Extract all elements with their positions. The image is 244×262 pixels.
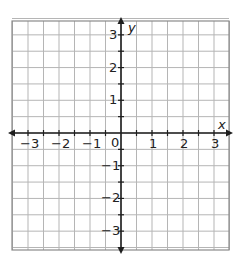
y-tick-label: 2 bbox=[109, 61, 117, 74]
coordinate-plane bbox=[0, 0, 244, 262]
x-tick-label: −1 bbox=[82, 137, 101, 150]
y-tick-label: 3 bbox=[109, 28, 117, 41]
y-tick-label: −2 bbox=[101, 191, 120, 204]
x-axis-label: x bbox=[218, 118, 226, 131]
x-tick-label: −2 bbox=[51, 137, 70, 150]
x-tick-label: 2 bbox=[180, 137, 188, 150]
y-axis-label: y bbox=[128, 21, 136, 34]
y-tick-label: −1 bbox=[101, 159, 120, 172]
origin-label: 0 bbox=[111, 136, 119, 149]
y-tick-label: 1 bbox=[109, 93, 117, 106]
grid-svg bbox=[0, 0, 244, 262]
x-tick-label: 3 bbox=[211, 137, 219, 150]
y-tick-label: −3 bbox=[101, 224, 120, 237]
x-tick-label: 1 bbox=[149, 137, 157, 150]
x-tick-label: −3 bbox=[20, 137, 39, 150]
